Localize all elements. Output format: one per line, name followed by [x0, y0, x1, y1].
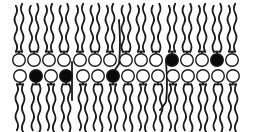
- upper-lipid-tail: [66, 4, 69, 52]
- upper-lipid-tail: [143, 4, 146, 52]
- upper-lipid-tail: [234, 4, 237, 52]
- upper-lipid-head-open: [28, 54, 41, 67]
- lower-lipid-head-open: [212, 70, 225, 83]
- lower-lipid-tail: [235, 84, 238, 132]
- lower-lipid-tail: [100, 84, 103, 132]
- upper-lipid-head-open: [181, 54, 194, 67]
- lipid-heads: [13, 54, 240, 83]
- lower-lipid-tail: [199, 84, 202, 130]
- lower-lipid-tail: [16, 84, 19, 130]
- lower-lipid-tail: [205, 84, 208, 132]
- lower-lipid-head-open: [122, 70, 135, 83]
- lower-lipid-tail: [229, 84, 232, 130]
- lower-lipid-head-open: [137, 70, 150, 83]
- upper-lipid-tail: [76, 6, 79, 52]
- lower-lipid-head-open: [167, 70, 180, 83]
- upper-lipid-tail: [91, 6, 94, 52]
- lower-lipid-head-open: [197, 70, 210, 83]
- upper-lipid-tail: [36, 4, 39, 52]
- upper-lipid-tail: [158, 4, 161, 52]
- upper-lipid-head-open: [89, 54, 102, 67]
- upper-lipid-tail: [137, 6, 140, 52]
- upper-lipid-tail: [97, 4, 100, 52]
- upper-lipid-tail: [15, 6, 18, 52]
- lower-lipid-head-filled: [30, 70, 43, 83]
- upper-lipid-head-open: [226, 54, 239, 67]
- upper-lipid-tail: [30, 6, 33, 52]
- lower-lipid-head-open: [182, 70, 195, 83]
- upper-lipid-tail: [122, 6, 125, 52]
- lower-lipid-tail: [214, 84, 217, 130]
- upper-lipid-tail: [60, 6, 63, 52]
- upper-lipid-tail: [213, 6, 216, 52]
- upper-lipid-head-filled: [211, 54, 224, 67]
- bilayer-illustration: [0, 0, 254, 132]
- lower-lipid-tail: [94, 84, 97, 130]
- upper-lipid-head-open: [135, 54, 148, 67]
- lower-lipid-tail: [220, 84, 223, 132]
- lower-lipid-tail: [68, 84, 71, 132]
- upper-lipid-head-open: [43, 54, 56, 67]
- lipid-bilayer-diagram: [0, 0, 254, 132]
- upper-lipid-tail: [189, 4, 192, 52]
- upper-lipid-tail: [198, 6, 201, 52]
- lower-lipid-tail: [79, 84, 82, 130]
- lower-lipid-head-open: [92, 70, 105, 83]
- upper-lipid-tail: [174, 4, 177, 52]
- lower-lipid-tail: [22, 84, 25, 132]
- upper-lipid-tail: [128, 4, 131, 52]
- upper-lipid-tail: [183, 6, 186, 52]
- lower-lipid-tail: [85, 84, 88, 132]
- upper-lipid-head-open: [120, 54, 133, 67]
- lower-lipid-tail: [38, 84, 41, 132]
- lower-lipid-tail: [124, 84, 127, 130]
- lower-lipid-tail: [32, 84, 35, 130]
- lower-lipid-tail: [139, 84, 142, 130]
- lower-lipid-tail: [62, 84, 65, 130]
- lower-lipid-tail: [184, 84, 187, 130]
- upper-lipid-tail: [51, 4, 54, 52]
- upper-lipid-tail: [152, 6, 155, 52]
- lower-lipid-head-filled: [107, 70, 120, 83]
- lower-lipid-tail: [130, 84, 133, 132]
- upper-lipid-head-open: [13, 54, 26, 67]
- upper-lipid-tail: [219, 4, 222, 52]
- upper-lipid-tail: [228, 6, 231, 52]
- upper-lipid-tail: [82, 4, 85, 52]
- upper-lipid-tail: [106, 6, 109, 52]
- upper-lipid-tail: [168, 6, 171, 52]
- lower-lipid-head-open: [152, 70, 165, 83]
- lower-lipid-tail: [145, 84, 148, 132]
- lower-lipid-head-open: [77, 70, 90, 83]
- lower-lipid-head-open: [227, 70, 240, 83]
- upper-lipid-head-filled: [166, 54, 179, 67]
- upper-lipid-head-open: [196, 54, 209, 67]
- lower-lipid-tail: [190, 84, 193, 132]
- lower-lipid-tail: [169, 84, 172, 130]
- lower-lipid-tail: [47, 84, 50, 130]
- upper-lipid-head-open: [150, 54, 163, 67]
- lower-lipid-head-open: [14, 70, 27, 83]
- lower-lipid-head-filled: [60, 70, 73, 83]
- upper-lipid-tail: [112, 4, 115, 52]
- lower-lipid-head-open: [45, 70, 58, 83]
- lower-lipid-tail: [154, 84, 157, 130]
- upper-lipid-head-open: [74, 54, 87, 67]
- upper-lipid-head-open: [58, 54, 71, 67]
- upper-lipid-tail: [45, 6, 48, 52]
- upper-lipid-head-open: [104, 54, 117, 67]
- lipid-tails: [15, 4, 238, 132]
- lower-lipid-tail: [115, 84, 118, 132]
- lower-lipid-tail: [109, 84, 112, 130]
- lower-lipid-tail: [53, 84, 56, 132]
- upper-lipid-tail: [204, 4, 207, 52]
- lower-lipid-tail: [175, 84, 178, 132]
- upper-lipid-tail: [21, 4, 24, 52]
